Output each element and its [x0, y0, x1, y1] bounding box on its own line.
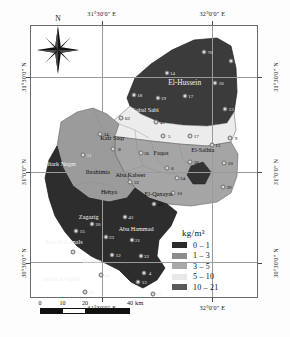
sample-point-value: 44: [105, 273, 110, 278]
sample-point[interactable]: [213, 80, 218, 85]
legend-rows: 0 – 11 – 33 – 55 – 1010 – 21: [172, 241, 218, 291]
map-legend: kg/m³ 0 – 11 – 33 – 55 – 1010 – 21: [172, 228, 218, 294]
sample-point[interactable]: [74, 228, 79, 233]
sample-point[interactable]: [111, 147, 116, 152]
sample-point[interactable]: [138, 254, 143, 259]
tick-right-3100: [258, 172, 262, 173]
sample-point-value: 14: [170, 71, 175, 76]
sample-point-value: 17: [188, 94, 193, 99]
sample-point[interactable]: [164, 71, 169, 76]
sample-point[interactable]: [119, 116, 124, 121]
scale-tick-1: 10: [60, 300, 66, 306]
sample-point[interactable]: [174, 175, 179, 180]
sample-point-value: 8: [118, 147, 121, 152]
legend-item-2[interactable]: 3 – 5: [172, 262, 218, 270]
sample-point[interactable]: [70, 250, 75, 255]
sample-point[interactable]: [164, 166, 169, 171]
sample-point-value: 70: [207, 49, 212, 54]
sample-point-value: 29: [89, 289, 94, 294]
sample-point[interactable]: [122, 215, 127, 220]
sample-point[interactable]: [131, 93, 136, 98]
compass-north-label: N: [36, 14, 80, 23]
sample-point-value: 16: [219, 80, 224, 85]
sample-point[interactable]: [188, 159, 193, 164]
axis-label-left-0: 31°30'0" N: [20, 62, 27, 92]
sample-point[interactable]: [171, 190, 176, 195]
sample-point-value: 39: [227, 185, 232, 190]
sample-point-value: 15: [215, 143, 220, 148]
scale-seg-2: [85, 309, 129, 313]
legend-label-0: 0 – 1: [193, 241, 210, 250]
axis-label-right-2: 30°30'0" N: [272, 248, 279, 278]
sample-point-value: 18: [137, 93, 142, 98]
sample-point-value: 25: [76, 250, 81, 255]
sample-point-value: 6: [171, 166, 174, 171]
sample-point[interactable]: [90, 221, 95, 226]
axis-label-right-0: 31°30'0" N: [272, 62, 279, 92]
legend-swatch-0: [172, 242, 187, 248]
sample-point[interactable]: [142, 270, 147, 275]
tick-right-3130: [258, 77, 262, 78]
sample-point[interactable]: [136, 280, 141, 285]
sample-point[interactable]: [80, 152, 85, 157]
scale-tick-3: 40: [127, 300, 133, 306]
sample-point[interactable]: [222, 160, 227, 165]
sample-point[interactable]: [129, 238, 134, 243]
sample-point-value: 20: [96, 221, 101, 226]
tick-top-3200: [212, 21, 213, 25]
sample-point[interactable]: [229, 59, 234, 64]
sample-point[interactable]: [103, 235, 108, 240]
axis-label-top-1: 32°0'0" E: [200, 10, 226, 17]
legend-item-0[interactable]: 0 – 1: [172, 241, 218, 249]
legend-label-3: 5 – 10: [193, 272, 214, 281]
sample-point-value: 10: [228, 160, 233, 165]
sample-point[interactable]: [128, 179, 133, 184]
sample-point-value: 22: [144, 254, 149, 259]
axis-label-left-2: 30°30'0" N: [20, 248, 27, 278]
sample-point[interactable]: [138, 151, 143, 156]
scale-bar-unit: km: [135, 299, 143, 306]
sample-point[interactable]: [221, 185, 226, 190]
sample-point[interactable]: [83, 289, 88, 294]
legend-label-2: 3 – 5: [193, 262, 210, 271]
sample-point[interactable]: [161, 133, 166, 138]
sample-point-value: 12: [116, 252, 121, 257]
tick-right-3030: [258, 263, 262, 264]
sample-point-value: 4: [149, 270, 152, 275]
legend-swatch-2: [172, 263, 187, 269]
sample-point-value: 38: [194, 159, 199, 164]
sample-point[interactable]: [99, 273, 104, 278]
map-figure: 7021141618191713624117593415836313810632…: [0, 0, 290, 337]
sample-point[interactable]: [154, 120, 159, 125]
graticule-parallel-3100: [31, 172, 257, 173]
sample-point-value: 13: [142, 280, 147, 285]
sample-point[interactable]: [97, 132, 102, 137]
sample-point-value: 13: [229, 106, 234, 111]
sample-point[interactable]: [151, 292, 156, 297]
sample-point[interactable]: [227, 136, 232, 141]
axis-label-right-1: 31°0'0" N: [272, 159, 279, 185]
sample-point[interactable]: [188, 133, 193, 138]
sample-point-value: 41: [160, 120, 165, 125]
scale-bar-tick-labels: 0102040: [40, 300, 150, 308]
legend-item-1[interactable]: 1 – 3: [172, 252, 218, 260]
sample-point[interactable]: [209, 143, 214, 148]
scale-bar: 0102040 km: [40, 300, 150, 314]
sample-point[interactable]: [201, 49, 206, 54]
legend-swatch-3: [172, 274, 187, 280]
sample-point[interactable]: [155, 95, 160, 100]
graticule-meridian-3130: [102, 26, 103, 297]
sample-point[interactable]: [152, 201, 157, 206]
graticule-parallel-3130: [31, 77, 257, 78]
legend-item-3[interactable]: 5 – 10: [172, 273, 218, 281]
scale-tick-2: 20: [82, 300, 88, 306]
axis-label-top-0: 31°30'0" E: [87, 10, 116, 17]
sample-point[interactable]: [110, 252, 115, 257]
sample-point[interactable]: [223, 106, 228, 111]
graticule-parallel-3030: [31, 262, 257, 263]
legend-item-4[interactable]: 10 – 21: [172, 283, 218, 291]
sample-point-value: 10: [177, 190, 182, 195]
sample-point[interactable]: [182, 94, 187, 99]
sample-point-value: 24: [180, 175, 185, 180]
sample-point-value: 19: [161, 95, 166, 100]
